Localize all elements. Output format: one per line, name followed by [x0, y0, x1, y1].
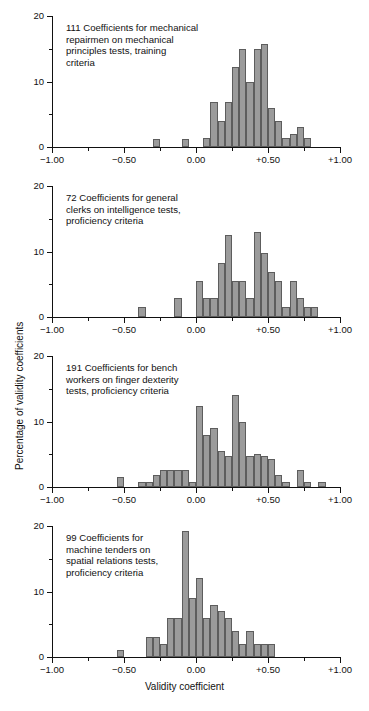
histogram-bar: [225, 456, 232, 487]
x-axis-tick: [160, 318, 161, 321]
histogram-bar: [225, 235, 232, 317]
x-axis-tick: [196, 148, 197, 153]
histogram-bar: [196, 281, 203, 317]
y-axis-line: [52, 186, 53, 318]
histogram-bar: [203, 298, 210, 317]
histogram-bar: [167, 618, 174, 657]
y-axis-tick: [49, 284, 52, 285]
x-axis-tick: [268, 148, 269, 153]
histogram-bar: [174, 470, 181, 487]
histogram-bar: [182, 139, 189, 147]
x-axis-tick-label: −0.50: [104, 494, 144, 505]
x-axis-tick-label: +0.50: [248, 324, 288, 335]
x-axis-tick-label: −1.00: [32, 664, 72, 675]
y-axis-tick-label: 10: [18, 246, 44, 257]
histogram-bar: [282, 307, 289, 317]
x-axis-tick: [160, 658, 161, 661]
histogram-bar: [268, 459, 275, 487]
histogram-bar: [196, 578, 203, 657]
x-axis-tick-label: +1.00: [320, 324, 360, 335]
histogram-bar: [203, 435, 210, 487]
x-axis-tick: [88, 148, 89, 151]
histogram-bar: [218, 121, 225, 147]
panel-caption: 99 Coefficients for machine tenders on s…: [66, 532, 296, 578]
x-axis-tick: [268, 658, 269, 663]
y-axis-tick-label: 20: [18, 10, 44, 21]
x-axis-tick: [52, 148, 53, 153]
histogram-bar: [297, 298, 304, 317]
y-axis-tick: [47, 592, 52, 593]
y-axis-tick-label: 20: [18, 520, 44, 531]
y-axis-tick: [47, 356, 52, 357]
x-axis-label: Validity coefficient: [0, 681, 369, 692]
histogram-bar: [210, 605, 217, 657]
histogram-bar: [218, 611, 225, 657]
y-axis-tick-label: 10: [18, 586, 44, 597]
x-axis-tick: [52, 318, 53, 323]
x-axis-tick: [160, 488, 161, 491]
histogram-bar: [239, 281, 246, 317]
histogram-bar: [297, 470, 304, 487]
x-axis-tick: [232, 488, 233, 491]
histogram-bar: [275, 475, 282, 487]
x-axis-tick: [88, 488, 89, 491]
histogram-bar: [117, 650, 124, 657]
histogram-bar: [275, 121, 282, 147]
x-axis-tick-label: −0.50: [104, 324, 144, 335]
validity-coefficient-histogram-figure: 01020−1.00−0.500.00+0.50+1.00111 Coeffic…: [0, 0, 369, 711]
histogram-bar: [239, 422, 246, 488]
histogram-bar: [297, 127, 304, 147]
histogram-bar: [203, 138, 210, 147]
x-axis-tick: [268, 318, 269, 323]
y-axis-tick: [49, 49, 52, 50]
x-axis-tick-label: 0.00: [176, 154, 216, 165]
histogram-bar: [153, 139, 160, 147]
x-axis-tick-label: 0.00: [176, 494, 216, 505]
panel-caption: 191 Coefficients for bench workers on fi…: [66, 362, 296, 397]
y-axis-tick: [47, 82, 52, 83]
x-axis-tick: [196, 318, 197, 323]
histogram-bar: [138, 307, 145, 317]
x-axis-tick: [52, 658, 53, 663]
y-axis-tick: [49, 624, 52, 625]
x-axis-tick-label: +0.50: [248, 494, 288, 505]
histogram-bar: [304, 307, 311, 317]
x-axis-tick-label: −1.00: [32, 324, 72, 335]
histogram-bar: [232, 395, 239, 487]
histogram-bar: [261, 253, 268, 317]
x-axis-tick-label: +0.50: [248, 154, 288, 165]
panel-caption: 111 Coefficients for mechanical repairme…: [66, 22, 296, 68]
y-axis-tick: [49, 114, 52, 115]
y-axis-line: [52, 526, 53, 658]
y-axis-tick: [47, 422, 52, 423]
x-axis-tick: [124, 148, 125, 153]
histogram-bar: [232, 67, 239, 147]
x-axis-tick: [304, 318, 305, 321]
x-axis-tick: [340, 318, 341, 323]
y-axis-tick: [47, 252, 52, 253]
x-axis-tick-label: +0.50: [248, 664, 288, 675]
histogram-bar: [174, 618, 181, 657]
y-axis-tick-label: 0: [18, 651, 44, 662]
histogram-bar: [203, 618, 210, 657]
histogram-bar: [311, 307, 318, 317]
x-axis-tick: [160, 148, 161, 151]
histogram-bar: [268, 272, 275, 317]
histogram-bar: [304, 138, 311, 147]
x-axis-tick: [52, 488, 53, 493]
histogram-bar: [246, 298, 253, 317]
x-axis-tick-label: +1.00: [320, 494, 360, 505]
x-axis-tick: [124, 318, 125, 323]
x-axis-tick: [304, 658, 305, 661]
histogram-bar: [254, 454, 261, 487]
y-axis-tick: [47, 16, 52, 17]
y-axis-line: [52, 356, 53, 488]
histogram-bar: [218, 263, 225, 317]
y-axis-tick-label: 10: [18, 76, 44, 87]
histogram-bar: [232, 631, 239, 657]
x-axis-tick: [304, 488, 305, 491]
histogram-bar: [261, 456, 268, 487]
histogram-bar: [196, 406, 203, 487]
y-axis-tick-label: 0: [18, 311, 44, 322]
histogram-bar: [239, 644, 246, 657]
